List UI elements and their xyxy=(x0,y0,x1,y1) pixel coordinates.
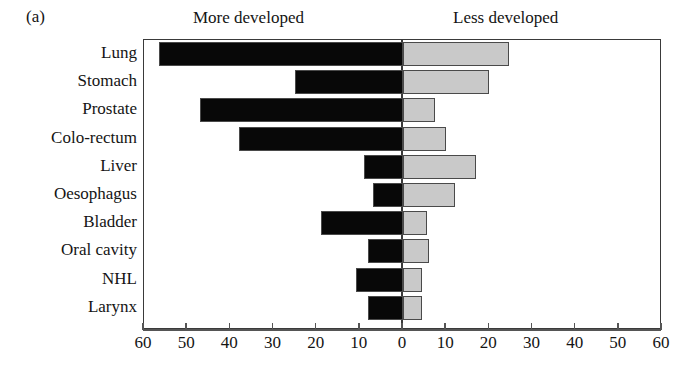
x-axis-tick xyxy=(358,323,360,330)
panel-letter: (a) xyxy=(26,8,45,25)
bar-row xyxy=(144,42,660,66)
category-label-oesophagus: Oesophagus xyxy=(5,182,143,206)
column-heading-less-developed: Less developed xyxy=(453,9,558,26)
caption-remnant-text xyxy=(60,376,64,380)
x-axis-tick xyxy=(229,323,231,330)
bar-less-developed xyxy=(403,296,422,320)
x-axis-tick-label: 10 xyxy=(437,334,454,351)
x-axis-tick xyxy=(315,323,317,330)
category-label-larynx: Larynx xyxy=(5,295,143,319)
category-label-colo-rectum: Colo-rectum xyxy=(5,126,143,150)
x-axis-tick-label: 20 xyxy=(307,334,324,351)
bar-less-developed xyxy=(403,42,509,66)
x-axis: 6050403020100102030405060 xyxy=(143,329,661,369)
bar-more-developed xyxy=(295,70,403,94)
category-label-nhl: NHL xyxy=(5,267,143,291)
bar-row xyxy=(144,155,660,179)
bar-more-developed xyxy=(200,98,403,122)
bar-more-developed xyxy=(321,211,403,235)
x-axis-tick-label: 30 xyxy=(523,334,540,351)
x-axis-tick-label: 60 xyxy=(653,334,670,351)
bar-less-developed xyxy=(403,70,489,94)
x-axis-tick-label: 30 xyxy=(264,334,281,351)
x-axis-tick xyxy=(401,323,403,330)
bar-more-developed xyxy=(364,155,403,179)
x-axis-tick-label: 50 xyxy=(609,334,626,351)
bar-less-developed xyxy=(403,155,476,179)
bar-more-developed xyxy=(356,268,403,292)
x-axis-tick xyxy=(660,323,662,330)
column-heading-more-developed: More developed xyxy=(193,9,304,26)
x-axis-tick xyxy=(488,323,490,330)
category-label-stomach: Stomach xyxy=(5,69,143,93)
x-axis-tick xyxy=(142,323,144,330)
bar-less-developed xyxy=(403,127,446,151)
bar-row xyxy=(144,268,660,292)
bar-less-developed xyxy=(403,239,429,263)
x-axis-tick-label: 0 xyxy=(398,334,407,351)
bar-more-developed xyxy=(239,127,403,151)
bar-row xyxy=(144,70,660,94)
bar-more-developed xyxy=(368,239,403,263)
x-axis-tick-label: 40 xyxy=(566,334,583,351)
x-axis-tick xyxy=(272,323,274,330)
bar-row xyxy=(144,296,660,320)
bar-less-developed xyxy=(403,98,435,122)
x-axis-tick xyxy=(574,323,576,330)
bar-row xyxy=(144,127,660,151)
bar-row xyxy=(144,98,660,122)
x-axis-tick-label: 60 xyxy=(135,334,152,351)
bar-more-developed xyxy=(368,296,403,320)
bar-row xyxy=(144,211,660,235)
category-label-lung: Lung xyxy=(5,41,143,65)
bar-less-developed xyxy=(403,211,427,235)
x-axis-tick xyxy=(617,323,619,330)
bar-more-developed xyxy=(159,42,403,66)
category-label-prostate: Prostate xyxy=(5,97,143,121)
chart-figure: (a) More developed Less developed LungSt… xyxy=(0,0,679,390)
x-axis-tick-label: 10 xyxy=(350,334,367,351)
bar-more-developed xyxy=(373,183,403,207)
plot-area xyxy=(143,39,661,329)
x-axis-tick xyxy=(531,323,533,330)
category-label-liver: Liver xyxy=(5,154,143,178)
bar-row xyxy=(144,183,660,207)
caption-remnant xyxy=(0,376,679,390)
x-axis-tick xyxy=(185,323,187,330)
category-label-bladder: Bladder xyxy=(5,210,143,234)
bar-less-developed xyxy=(403,183,455,207)
x-axis-tick-label: 50 xyxy=(178,334,195,351)
category-label-oral-cavity: Oral cavity xyxy=(5,238,143,262)
bar-less-developed xyxy=(403,268,422,292)
x-axis-tick xyxy=(444,323,446,330)
bar-row xyxy=(144,239,660,263)
category-label-column: LungStomachProstateColo-rectumLiverOesop… xyxy=(0,39,143,329)
x-axis-tick-label: 20 xyxy=(480,334,497,351)
x-axis-tick-label: 40 xyxy=(221,334,238,351)
